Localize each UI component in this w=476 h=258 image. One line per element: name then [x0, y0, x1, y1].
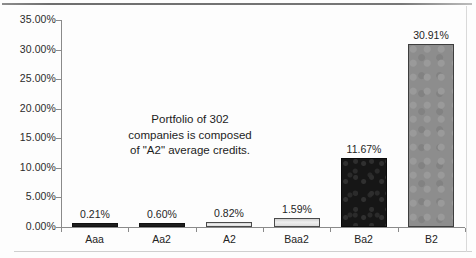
bar-value-label-b2: 30.91%	[396, 29, 466, 41]
x-axis-category-label: A2	[196, 233, 263, 245]
bar-value-label-a2: 0.82%	[194, 207, 264, 219]
x-axis-category-label: B2	[398, 233, 465, 245]
annotation-line-3: of "A2" average credits.	[100, 143, 280, 159]
y-axis-tick	[56, 20, 61, 21]
y-axis-tick-label: 5.00%	[0, 190, 56, 202]
y-axis-tick-label: 25.00%	[0, 72, 56, 84]
y-axis-tick	[56, 168, 61, 169]
bar-value-label-baa2: 1.59%	[262, 203, 332, 215]
y-axis-tick-label-text: 35.00%	[0, 13, 56, 25]
x-axis-tick	[398, 228, 399, 232]
x-axis-tick	[465, 228, 466, 232]
y-axis-tick-label-text: 15.00%	[0, 131, 56, 143]
y-axis-tick-label: 15.00%	[0, 131, 56, 143]
bar-chart-figure: 35.00%30.00%25.00%20.00%15.00%10.00%5.00…	[0, 0, 476, 258]
x-axis-tick	[330, 228, 331, 232]
y-axis-tick-label: 10.00%	[0, 161, 56, 173]
x-axis-tick	[263, 228, 264, 232]
bar-b2	[408, 44, 454, 227]
bar-value-label-aa2: 0.60%	[127, 208, 197, 220]
x-axis-category-label: Ba2	[330, 233, 397, 245]
x-axis-tick	[128, 228, 129, 232]
y-axis-tick-label-text: 5.00%	[0, 190, 56, 202]
chart-annotation: Portfolio of 302 companies is composed o…	[100, 112, 280, 159]
y-axis-tick	[56, 50, 61, 51]
bar-value-label-aaa: 0.21%	[60, 208, 130, 220]
x-axis-tick	[61, 228, 62, 232]
annotation-line-2: companies is composed	[100, 128, 280, 144]
page-border-bottom	[14, 251, 472, 252]
page-border-right	[466, 6, 467, 252]
y-axis-tick-label-text: 30.00%	[0, 43, 56, 55]
x-axis-category-label: Baa2	[263, 233, 330, 245]
y-axis-tick-label-text: 10.00%	[0, 161, 56, 173]
y-axis-tick	[56, 197, 61, 198]
y-axis-tick-label-text: 25.00%	[0, 72, 56, 84]
x-axis-category-label: Aa2	[128, 233, 195, 245]
bar-a2	[206, 222, 252, 227]
bar-value-label-ba2: 11.67%	[329, 143, 399, 155]
y-axis-tick	[56, 109, 61, 110]
y-axis-tick-label-text: 0.00%	[0, 220, 56, 232]
x-axis-category-label: Aaa	[61, 233, 128, 245]
bar-baa2	[274, 218, 320, 227]
page-border-top	[2, 3, 472, 5]
bar-aa2	[139, 223, 185, 227]
y-axis-tick	[56, 79, 61, 80]
y-axis-tick-label-text: 20.00%	[0, 102, 56, 114]
annotation-line-1: Portfolio of 302	[100, 112, 280, 128]
y-axis-tick-label: 30.00%	[0, 43, 56, 55]
y-axis-tick-label: 35.00%	[0, 13, 56, 25]
bar-ba2	[341, 158, 387, 227]
y-axis-tick-label: 20.00%	[0, 102, 56, 114]
y-axis-tick-label: 0.00%	[0, 220, 56, 232]
x-axis-tick	[196, 228, 197, 232]
bar-aaa	[72, 223, 118, 227]
y-axis-line	[61, 20, 62, 228]
y-axis-tick	[56, 138, 61, 139]
